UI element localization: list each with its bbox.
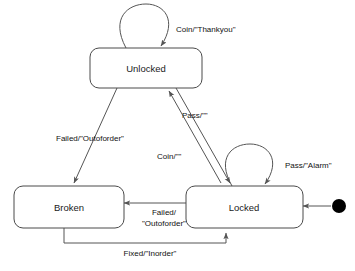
transition-unlocked-self: Coin/"Thankyou" — [120, 4, 236, 48]
transition-unlocked-self-label: Coin/"Thankyou" — [176, 25, 236, 34]
state-machine-diagram: Coin/"Thankyou" Pass/"" Coin/"" Failed/"… — [0, 0, 355, 271]
transition-unlocked-to-broken-label: Failed/"Outoforder" — [56, 134, 124, 143]
initial-state-dot-icon — [332, 199, 346, 213]
state-broken-label: Broken — [54, 202, 84, 213]
transition-unlocked-to-locked: Pass/"" — [176, 88, 230, 183]
transition-locked-self-label: Pass/"Alarm" — [285, 161, 332, 170]
transition-locked-to-unlocked-label: Coin/"" — [157, 152, 182, 161]
transition-locked-self: Pass/"Alarm" — [225, 144, 331, 186]
transition-locked-to-unlocked: Coin/"" — [157, 91, 221, 183]
transition-locked-to-broken-label-line2: "Outoforder" — [142, 219, 186, 228]
transition-broken-to-locked: Fixed/"Inorder" — [64, 228, 226, 258]
transition-unlocked-self-arrow — [120, 4, 169, 48]
transition-unlocked-to-locked-arrow — [176, 88, 230, 183]
transition-locked-self-arrow — [225, 144, 272, 186]
transition-broken-to-locked-label: Fixed/"Inorder" — [124, 249, 177, 258]
diagram-canvas: Coin/"Thankyou" Pass/"" Coin/"" Failed/"… — [0, 0, 355, 271]
transition-locked-to-broken: Failed/ "Outoforder" — [124, 203, 186, 228]
initial-transition — [303, 199, 346, 213]
transition-unlocked-to-locked-label: Pass/"" — [182, 111, 208, 120]
state-locked-label: Locked — [229, 202, 260, 213]
state-unlocked[interactable]: Unlocked — [90, 48, 202, 88]
state-broken[interactable]: Broken — [14, 186, 124, 228]
transition-locked-to-broken-label-line1: Failed/ — [152, 208, 177, 217]
transition-broken-to-locked-arrow — [64, 228, 226, 243]
transition-locked-to-unlocked-arrow — [169, 91, 221, 183]
transition-unlocked-to-broken: Failed/"Outoforder" — [56, 88, 124, 183]
state-locked[interactable]: Locked — [186, 186, 303, 228]
state-unlocked-label: Unlocked — [126, 63, 166, 74]
